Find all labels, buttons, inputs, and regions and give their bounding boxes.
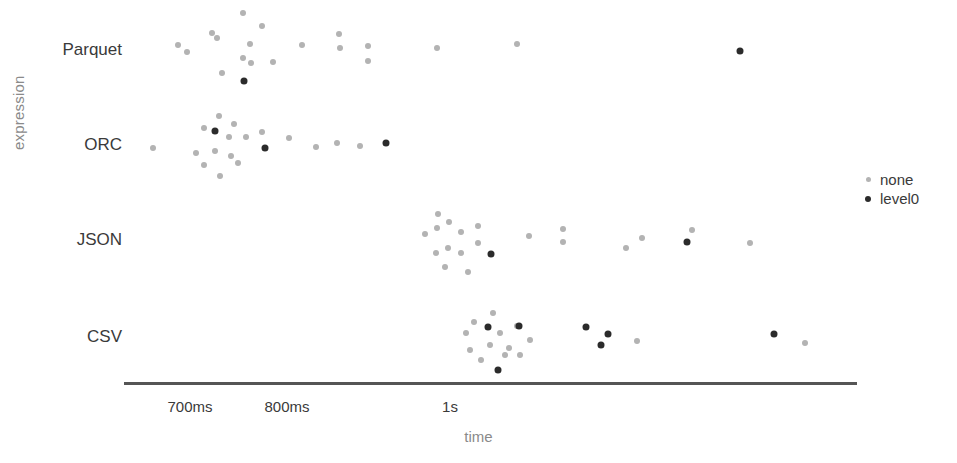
data-point-none	[259, 23, 265, 29]
legend: nonelevel0	[862, 170, 919, 208]
data-point-none	[248, 60, 254, 66]
data-point-none	[487, 342, 493, 348]
data-point-level0	[583, 324, 590, 331]
data-point-none	[502, 352, 508, 358]
data-point-none	[193, 150, 199, 156]
data-point-none	[247, 41, 253, 47]
data-point-level0	[262, 145, 269, 152]
legend-item-label: level0	[880, 191, 919, 206]
data-point-none	[214, 35, 220, 41]
data-point-none	[240, 10, 246, 16]
data-point-none	[235, 160, 241, 166]
y-axis-category-label: Parquet	[2, 40, 122, 60]
data-point-none	[446, 219, 452, 225]
data-point-none	[526, 233, 532, 239]
data-point-level0	[495, 367, 502, 374]
data-point-none	[270, 59, 276, 65]
none-dot-icon	[862, 177, 874, 182]
scatter-plot-figure: expression ParquetORCJSONCSV 700ms800ms1…	[0, 0, 957, 463]
x-axis-tick-label: 700ms	[167, 398, 212, 415]
data-point-level0	[605, 331, 612, 338]
data-point-none	[334, 140, 340, 146]
data-point-none	[243, 134, 249, 140]
data-point-none	[463, 330, 469, 336]
data-point-none	[514, 41, 520, 47]
data-point-none	[475, 240, 481, 246]
data-point-none	[433, 250, 439, 256]
data-point-none	[467, 347, 473, 353]
data-point-none	[226, 134, 232, 140]
data-point-none	[560, 226, 566, 232]
data-point-none	[802, 340, 808, 346]
data-point-none	[490, 310, 496, 316]
data-point-none	[365, 43, 371, 49]
data-point-none	[475, 223, 481, 229]
x-axis-tick-label: 1s	[442, 398, 458, 415]
data-point-none	[313, 144, 319, 150]
data-point-none	[442, 264, 448, 270]
legend-item[interactable]: level0	[862, 189, 919, 208]
data-point-none	[435, 211, 441, 217]
data-point-none	[623, 245, 629, 251]
legend-item[interactable]: none	[862, 170, 919, 189]
data-point-none	[201, 125, 207, 131]
data-point-level0	[598, 342, 605, 349]
data-point-none	[357, 143, 363, 149]
data-point-none	[150, 145, 156, 151]
y-axis-category-label: CSV	[2, 327, 122, 347]
data-point-none	[478, 357, 484, 363]
data-point-none	[175, 42, 181, 48]
data-point-none	[458, 250, 464, 256]
data-point-level0	[488, 251, 495, 258]
data-point-none	[445, 245, 451, 251]
data-point-level0	[516, 323, 523, 330]
data-point-none	[747, 240, 753, 246]
data-point-none	[634, 338, 640, 344]
data-point-level0	[212, 128, 219, 135]
data-point-none	[216, 113, 222, 119]
data-point-none	[231, 121, 237, 127]
data-point-none	[201, 162, 207, 168]
x-axis-line	[124, 382, 857, 385]
y-axis-category-label: ORC	[2, 135, 122, 155]
data-point-none	[299, 42, 305, 48]
data-point-level0	[383, 140, 390, 147]
data-point-none	[458, 229, 464, 235]
data-point-none	[517, 352, 523, 358]
data-point-none	[240, 55, 246, 61]
data-point-level0	[771, 331, 778, 338]
data-point-none	[184, 49, 190, 55]
level0-dot-icon	[862, 196, 874, 202]
data-point-none	[471, 319, 477, 325]
data-point-none	[259, 129, 265, 135]
data-point-none	[212, 148, 218, 154]
data-point-none	[219, 70, 225, 76]
data-point-level0	[684, 239, 691, 246]
legend-item-label: none	[880, 172, 913, 187]
data-point-none	[465, 269, 471, 275]
data-point-none	[422, 231, 428, 237]
data-point-level0	[241, 78, 248, 85]
data-point-none	[689, 227, 695, 233]
x-axis-title: time	[0, 428, 957, 445]
data-point-none	[365, 58, 371, 64]
x-axis-tick-label: 800ms	[264, 398, 309, 415]
data-point-none	[497, 330, 503, 336]
data-point-none	[337, 45, 343, 51]
data-point-none	[336, 31, 342, 37]
data-point-level0	[485, 324, 492, 331]
data-point-none	[228, 153, 234, 159]
data-point-none	[527, 337, 533, 343]
data-point-level0	[737, 48, 744, 55]
data-point-none	[434, 225, 440, 231]
data-point-none	[286, 135, 292, 141]
data-point-none	[560, 239, 566, 245]
data-point-none	[639, 235, 645, 241]
data-point-none	[506, 345, 512, 351]
y-axis-category-label: JSON	[2, 230, 122, 250]
data-point-none	[217, 173, 223, 179]
data-point-none	[434, 45, 440, 51]
